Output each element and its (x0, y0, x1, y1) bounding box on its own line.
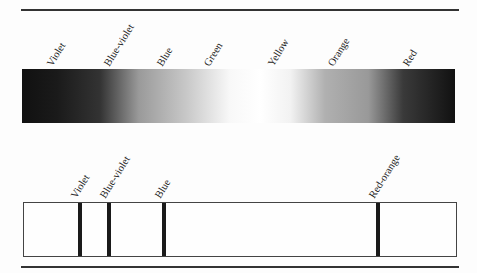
bottom-rule (21, 266, 459, 268)
emission-line-red-orange (376, 203, 380, 256)
emission-line-blue (162, 203, 166, 256)
top-rule (21, 9, 459, 11)
spectrum-label-green: Green (202, 40, 225, 68)
emission-line-violet (78, 203, 82, 256)
line-label-violet: Violet (69, 172, 92, 200)
line-label-blue-violet: Blue-violet (98, 154, 132, 200)
spectrum-label-yellow: Yellow (266, 37, 291, 68)
continuous-spectrum-band (22, 69, 455, 123)
line-spectrum-box (23, 202, 457, 257)
spectrum-label-blue-violet: Blue-violet (102, 22, 136, 68)
spectrum-label-orange: Orange (326, 36, 352, 68)
spectrum-label-blue: Blue (155, 45, 175, 68)
spectrum-label-violet: Violet (45, 40, 68, 68)
emission-line-blue-violet (107, 203, 111, 256)
line-label-red-orange: Red-orange (367, 153, 402, 200)
spectrum-label-red: Red (401, 48, 419, 68)
line-label-blue: Blue (153, 177, 173, 200)
